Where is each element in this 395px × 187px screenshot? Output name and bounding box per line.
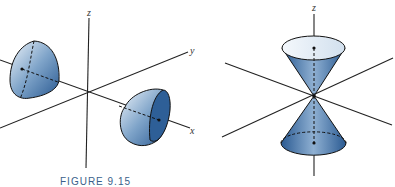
z-label-right: z xyxy=(311,2,316,13)
figure-caption: FIGURE 9.15 xyxy=(60,176,131,187)
figure-canvas: z y x z xyxy=(0,0,395,187)
z-label: z xyxy=(86,7,91,18)
y-label: y xyxy=(189,45,195,56)
left-sheet xyxy=(10,41,59,99)
left-diagram: z y x xyxy=(0,7,195,168)
upper-cone xyxy=(282,36,345,96)
origin-point xyxy=(312,94,316,98)
right-diagram: z xyxy=(222,2,393,176)
x-label: x xyxy=(189,125,195,136)
right-sheet xyxy=(119,89,170,146)
